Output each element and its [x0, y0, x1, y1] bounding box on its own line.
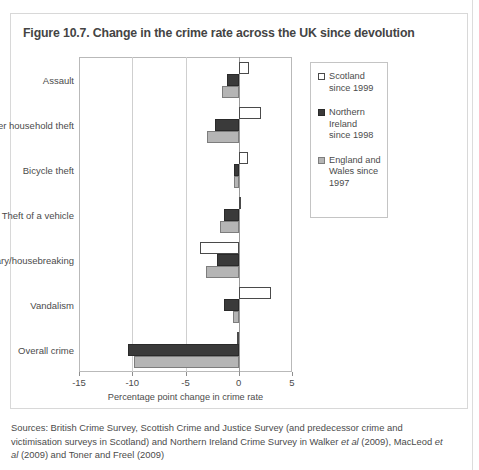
x-tick-label-0: 0 — [236, 377, 241, 388]
bar-group: Burglary/housebreaking — [79, 242, 292, 278]
x-tick-mark--15 — [79, 372, 80, 376]
x-tick-label--10: -10 — [125, 377, 139, 388]
bar-group: Assault — [79, 62, 292, 98]
legend-label-england-wales: England and Wales since 1997 — [329, 155, 381, 188]
bar-scotland — [239, 62, 250, 74]
bar-ni — [217, 254, 238, 266]
bar-scotland — [237, 332, 239, 344]
x-tick-mark--10 — [132, 372, 133, 376]
sources-text-2: (2009), MacLeod — [359, 436, 435, 447]
legend-item-england-wales: England and Wales since 1997 — [318, 155, 381, 190]
bar-group: Theft of a vehicle — [79, 197, 292, 233]
bar-scotland — [239, 107, 261, 119]
category-label: Bicycle theft — [23, 166, 74, 176]
x-tick-mark--5 — [186, 372, 187, 376]
legend-label-northern-ireland: Northern Ireland since 1998 — [329, 107, 373, 140]
bar-ni — [224, 209, 239, 221]
bar-scotland — [200, 242, 238, 254]
figure-title: Figure 10.7. Change in the crime rate ac… — [23, 26, 415, 40]
bar-scotland — [239, 152, 249, 164]
legend-item-northern-ireland: Northern Ireland since 1998 — [318, 107, 381, 142]
bar-ni — [224, 299, 239, 311]
sources-text-3: (2009) and Toner and Freel (2009) — [18, 449, 164, 460]
category-label: Assault — [43, 76, 74, 86]
category-label: Theft of a vehicle — [2, 211, 74, 221]
bar-scotland — [239, 287, 271, 299]
sources-italic-1: et al — [341, 436, 359, 447]
bar-ni — [128, 344, 239, 356]
legend-label-scotland: Scotland since 1999 — [329, 71, 373, 93]
figure-panel: Figure 10.7. Change in the crime rate ac… — [10, 13, 468, 409]
bar-ew — [207, 131, 239, 143]
chart-plot-area: AssaultOther household theftBicycle thef… — [79, 57, 292, 372]
category-label: Overall crime — [18, 346, 74, 356]
x-tick-label--5: -5 — [181, 377, 189, 388]
x-tick-label-5: 5 — [289, 377, 294, 388]
bar-ew — [234, 176, 238, 188]
bar-group: Other household theft — [79, 107, 292, 143]
category-label: Other household theft — [0, 121, 74, 131]
x-tick-mark-5 — [292, 372, 293, 376]
category-label: Vandalism — [30, 301, 74, 311]
legend-item-scotland: Scotland since 1999 — [318, 71, 381, 94]
bar-group: Vandalism — [79, 287, 292, 323]
bar-ew — [222, 86, 239, 98]
x-axis-title: Percentage point change in crime rate — [79, 392, 292, 402]
bar-ew — [206, 266, 239, 278]
bar-group: Overall crime — [79, 332, 292, 368]
legend-swatch-icon-northern-ireland — [318, 109, 325, 116]
bar-ni — [227, 74, 239, 86]
legend-swatch-icon-scotland — [318, 73, 325, 80]
x-axis: -15-10-505 — [79, 372, 292, 388]
chart-legend: Scotland since 1999 Northern Ireland sin… — [310, 62, 388, 218]
bar-ew — [134, 356, 238, 368]
bar-group: Bicycle theft — [79, 152, 292, 188]
legend-swatch-icon-england-wales — [318, 157, 325, 164]
page-edge-rule — [472, 0, 473, 470]
x-tick-label--15: -15 — [72, 377, 86, 388]
bar-scotland — [239, 197, 241, 209]
bar-ew — [233, 311, 238, 323]
bar-ew — [220, 221, 239, 233]
x-tick-mark-0 — [239, 372, 240, 376]
category-label: Burglary/housebreaking — [0, 256, 74, 266]
bar-ni — [234, 164, 238, 176]
bar-ni — [215, 119, 238, 131]
sources-note: Sources: British Crime Survey, Scottish … — [11, 421, 451, 462]
